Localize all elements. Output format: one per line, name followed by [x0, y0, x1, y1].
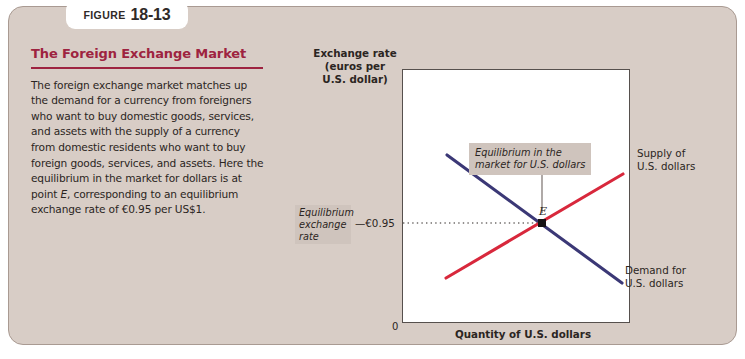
- demand-curve-label: Demand for U.S. dollars: [625, 264, 686, 290]
- figure-panel: Figure 18-13 The Foreign Exchange Market…: [8, 6, 737, 345]
- figure-text-column: The Foreign Exchange Market The foreign …: [31, 47, 281, 218]
- y-axis-label-line-2: (euros per: [309, 60, 401, 73]
- demand-curve-label-line-2: U.S. dollars: [625, 277, 686, 290]
- figure-title: The Foreign Exchange Market: [31, 47, 281, 67]
- figure-caption-text: The foreign exchange market matches up t…: [31, 78, 267, 218]
- figure-number-tab: Figure 18-13: [66, 1, 188, 29]
- plot-area: [402, 69, 630, 323]
- figure-word-label: Figure: [83, 9, 125, 21]
- title-divider-rule: [31, 67, 263, 69]
- x-axis-label: Quantity of U.S. dollars: [455, 328, 687, 340]
- y-axis-label-line-3: U.S. dollar): [309, 73, 401, 86]
- equilibrium-rate-note: Equilibrium exchange rate: [295, 205, 351, 244]
- origin-label: 0: [392, 321, 398, 332]
- figure-number-label: 18-13: [131, 6, 171, 24]
- equilibrium-callout-line-2: market for U.S. dollars: [475, 159, 585, 171]
- y-axis-label-line-1: Exchange rate: [309, 47, 401, 60]
- equilibrium-rate-note-line-1: Equilibrium: [299, 207, 347, 219]
- equilibrium-callout-line-1: Equilibrium in the: [475, 147, 585, 159]
- equilibrium-rate-note-line-3: rate: [299, 231, 347, 243]
- y-axis-label: Exchange rate (euros per U.S. dollar): [309, 47, 401, 86]
- demand-curve-label-line-1: Demand for: [625, 264, 686, 277]
- supply-curve-label: Supply of U.S. dollars: [637, 147, 695, 173]
- y-axis-tick-equilibrium: —€0.95: [355, 217, 395, 229]
- equilibrium-rate-note-line-2: exchange: [299, 219, 347, 231]
- chart-area: Exchange rate (euros per U.S. dollar) Eq…: [295, 47, 725, 337]
- equilibrium-callout: Equilibrium in the market for U.S. dolla…: [469, 143, 591, 175]
- supply-curve-label-line-1: Supply of: [637, 147, 695, 160]
- supply-curve-label-line-2: U.S. dollars: [637, 160, 695, 173]
- equilibrium-point-label: E: [539, 205, 547, 218]
